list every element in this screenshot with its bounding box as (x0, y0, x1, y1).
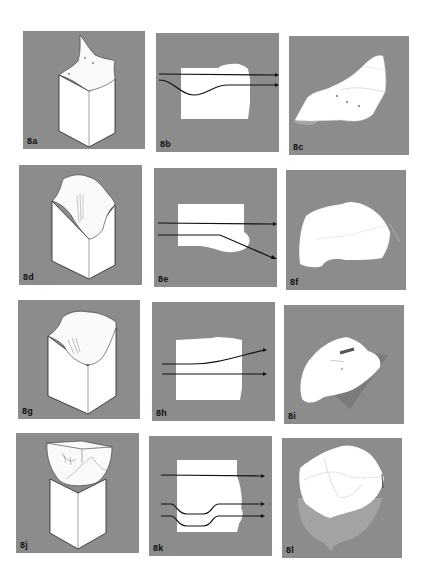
panel-8e: 8e (154, 168, 277, 287)
panel-8g: 8g (18, 300, 140, 419)
panel-8d: 8d (19, 165, 142, 285)
panel-8c: 8c (289, 36, 409, 155)
panel-8j: 8j (16, 433, 139, 553)
section-arrows-illustration (154, 168, 277, 287)
section-arrows-illustration (156, 33, 279, 152)
panel-label: 8l (286, 545, 294, 555)
panel-8i: 8i (284, 305, 404, 424)
panel-label: 8g (22, 406, 33, 416)
panel-label: 8h (156, 408, 167, 418)
surface-view-illustration (282, 438, 402, 558)
surface-view-illustration (286, 170, 406, 290)
panel-8l: 8l (282, 438, 402, 558)
panel-label: 8j (20, 540, 28, 550)
block-rounded-top-illustration (18, 300, 140, 419)
panel-label: 8e (158, 274, 168, 284)
panel-label: 8k (153, 543, 163, 553)
block-draped-top-illustration (19, 165, 142, 285)
surface-view-illustration (284, 305, 404, 424)
section-arrows-illustration (152, 302, 275, 421)
section-arrows-illustration (149, 436, 272, 556)
panel-label: 8c (293, 142, 303, 152)
panel-8b: 8b (156, 33, 279, 152)
panel-label: 8b (160, 139, 171, 149)
surface-view-illustration (289, 36, 409, 155)
bowl-on-block-illustration (16, 433, 139, 553)
panel-8a: 8a (23, 31, 145, 149)
panel-label: 8a (27, 136, 37, 146)
panel-8h: 8h (152, 302, 275, 421)
panel-label: 8i (288, 411, 296, 421)
panel-label: 8d (23, 272, 34, 282)
block-peaked-top-illustration (23, 31, 145, 149)
panel-8k: 8k (149, 436, 272, 556)
panel-8f: 8f (286, 170, 406, 290)
panel-label: 8f (290, 277, 298, 287)
